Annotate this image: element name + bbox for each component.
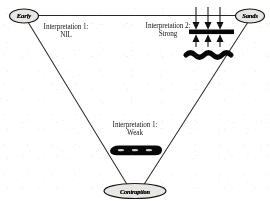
- label-center-line2: Weak: [88, 130, 182, 138]
- label-interpretation-center: Interpretation 1: Weak: [88, 122, 182, 138]
- label-interpretation-left: Interpretation 1: NIL: [26, 24, 106, 40]
- weak-blob-highlights: [118, 149, 152, 151]
- label-left-line2: NIL: [26, 32, 106, 40]
- schematic-wave: [186, 53, 231, 58]
- diagram-canvas: Interpretation 1: NIL Interpretation 2: …: [0, 0, 270, 201]
- node-sands-label: Sands: [236, 12, 264, 19]
- node-early-label: Early: [10, 12, 38, 19]
- label-right-line2: Strong: [126, 31, 210, 39]
- down-arrow-head: [217, 23, 222, 29]
- blob-highlight: [146, 149, 152, 151]
- weak-schematic: [110, 146, 162, 156]
- triangle-edges: [28, 16, 248, 187]
- triangle-edge-left: [28, 22, 128, 186]
- blob-highlight: [132, 149, 138, 151]
- up-arrow-head: [217, 36, 222, 42]
- node-contraption-label: Contraption: [103, 188, 167, 195]
- label-interpretation-right: Interpretation 2: Strong: [126, 23, 210, 39]
- blob-highlight: [118, 149, 124, 151]
